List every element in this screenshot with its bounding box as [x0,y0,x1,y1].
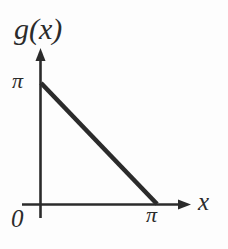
origin-label: 0 [11,206,24,231]
function-line-g [41,83,157,204]
x-axis-label: x [198,189,209,214]
x-axis-arrowhead [178,200,191,210]
graph-figure: g(x) π 0 π x [0,0,228,249]
y-axis-tick-label-pi: π [12,70,23,92]
x-axis-tick-label-pi: π [146,204,157,226]
y-axis-arrowhead [36,48,46,61]
x-axis [22,200,191,210]
y-axis [36,48,46,218]
function-label: g(x) [14,14,62,44]
